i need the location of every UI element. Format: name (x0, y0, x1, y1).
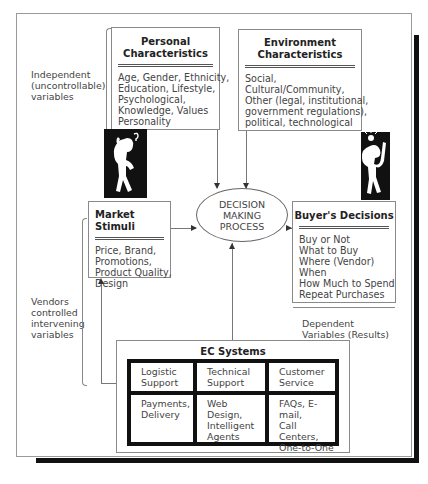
buyers-decisions-box: Buyer's Decisions Buy or Not What to Buy… (292, 201, 396, 303)
decision-making-process: DECISION MAKING PROCESS (196, 188, 288, 242)
market-title: Market Stimuli (89, 209, 170, 233)
arrow-up-icon (229, 243, 235, 249)
environment-title: Environment Characteristics (239, 37, 361, 61)
ec-cell-payments-delivery: Payments,Delivery (131, 395, 193, 442)
arrow-down-icon (214, 183, 220, 189)
idea-person-icon (361, 132, 390, 200)
ec-cell-faqs: FAQs, E-mail,Call Centers,One-to-One (269, 395, 335, 442)
ec-cell-logistic-support: LogisticSupport (131, 363, 193, 391)
arrow-up-icon (98, 278, 104, 284)
vendors-bracket (82, 218, 87, 386)
personal-title: Personal Characteristics (112, 36, 219, 60)
ec-title: EC Systems (117, 346, 349, 358)
ec-grid: LogisticSupport TechnicalSupport Custome… (127, 359, 339, 446)
buyer-items: Buy or Not What to Buy Where (Vendor) Wh… (293, 234, 395, 300)
environment-items: Social, Cultural/Community, Other (legal… (239, 73, 361, 128)
title-divider (299, 226, 389, 229)
ec-cell-web-design: Web Design,IntelligentAgents (197, 395, 265, 442)
thinking-person-figure (104, 129, 147, 198)
personal-characteristics-box: Personal Characteristics Age, Gender, Et… (111, 27, 220, 130)
thinking-person-icon (104, 129, 147, 198)
dependent-variables-label: Dependent Variables (Results) (302, 318, 389, 340)
frame-shadow-right (414, 35, 419, 463)
independent-variables-label: Independent (uncontrollable) variables (31, 69, 105, 102)
frame-shadow-bottom (36, 458, 419, 463)
market-stimuli-box: Market Stimuli Price, Brand, Promotions,… (88, 201, 171, 278)
vendors-variables-label: Vendors controlled intervening variables (31, 296, 85, 340)
personal-items: Age, Gender, Ethnicity, Education, Lifes… (112, 72, 219, 127)
ec-to-market-connector (101, 383, 116, 384)
ec-to-market-line (101, 280, 102, 384)
personal-to-decision-line (217, 130, 218, 188)
idea-person-figure (361, 132, 390, 200)
title-divider (245, 65, 355, 68)
dependent-bracket (293, 307, 395, 308)
buyer-title: Buyer's Decisions (293, 210, 395, 222)
ec-cell-customer-service: CustomerService (269, 363, 335, 391)
title-divider (118, 64, 213, 67)
environment-to-decision-line (246, 131, 247, 188)
environment-characteristics-box: Environment Characteristics Social, Cult… (238, 29, 362, 131)
ec-to-decision-line (232, 243, 233, 340)
ec-systems-box: EC Systems LogisticSupport TechnicalSupp… (116, 340, 350, 453)
title-divider (95, 237, 164, 240)
ec-cell-technical-support: TechnicalSupport (197, 363, 265, 391)
